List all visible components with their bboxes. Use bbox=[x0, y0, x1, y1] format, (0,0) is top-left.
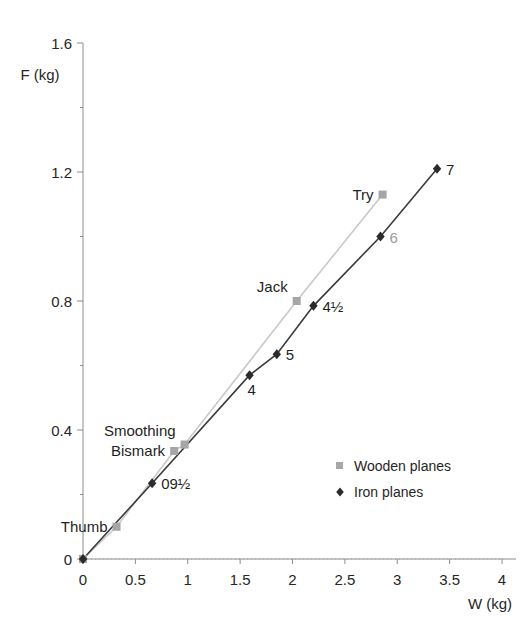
legend-label: Iron planes bbox=[354, 484, 423, 500]
x-axis-title: W (kg) bbox=[468, 595, 512, 612]
legend: Wooden planesIron planes bbox=[336, 458, 451, 500]
legend-label: Wooden planes bbox=[354, 458, 451, 474]
data-point-marker bbox=[379, 191, 387, 199]
data-point-label: Jack bbox=[257, 278, 288, 295]
data-point-marker bbox=[293, 297, 301, 305]
x-tick-label: 4 bbox=[498, 571, 506, 588]
x-tick-label: 1 bbox=[184, 571, 192, 588]
tick-marks-group bbox=[77, 43, 502, 564]
y-axis-title: F (kg) bbox=[20, 66, 59, 83]
series-line-iron bbox=[83, 169, 437, 559]
y-tick-label: 1.2 bbox=[51, 164, 72, 181]
y-tick-label: 1.6 bbox=[51, 35, 72, 52]
series-lines-group bbox=[83, 169, 437, 559]
data-point-label: 09½ bbox=[161, 475, 191, 492]
chart-container: 00.40.81.21.600.511.522.533.54 ThumbBism… bbox=[0, 0, 524, 637]
x-tick-label: 1.5 bbox=[230, 571, 251, 588]
data-point-marker bbox=[170, 447, 178, 455]
x-tick-label: 0 bbox=[79, 571, 87, 588]
point-labels-group: ThumbBismarkSmoothingJackTry09½454½67 bbox=[61, 161, 455, 535]
y-tick-label: 0 bbox=[64, 551, 72, 568]
data-point-label: Thumb bbox=[61, 518, 108, 535]
data-point-label: 4½ bbox=[322, 298, 343, 315]
y-tick-label: 0.8 bbox=[51, 293, 72, 310]
legend-marker-square bbox=[336, 462, 343, 469]
data-point-label: Try bbox=[352, 186, 374, 203]
x-tick-label: 0.5 bbox=[125, 571, 146, 588]
data-point-label: 4 bbox=[247, 381, 255, 398]
data-point-marker bbox=[181, 441, 189, 449]
x-tick-label: 2.5 bbox=[334, 571, 355, 588]
tick-labels-group: 00.40.81.21.600.511.522.533.54 bbox=[51, 35, 506, 588]
legend-marker-diamond bbox=[336, 488, 344, 497]
x-tick-label: 3.5 bbox=[439, 571, 460, 588]
series-line-wooden bbox=[83, 195, 383, 559]
data-point-label: Smoothing bbox=[104, 422, 176, 439]
x-tick-label: 3 bbox=[393, 571, 401, 588]
data-point-marker bbox=[113, 523, 121, 531]
data-point-label: 7 bbox=[446, 161, 454, 178]
scatter-plot: 00.40.81.21.600.511.522.533.54 ThumbBism… bbox=[0, 0, 524, 637]
data-point-label: 5 bbox=[286, 346, 294, 363]
y-tick-label: 0.4 bbox=[51, 422, 72, 439]
x-tick-label: 2 bbox=[288, 571, 296, 588]
data-point-label: 6 bbox=[389, 229, 397, 246]
data-point-label: Bismark bbox=[111, 442, 166, 459]
